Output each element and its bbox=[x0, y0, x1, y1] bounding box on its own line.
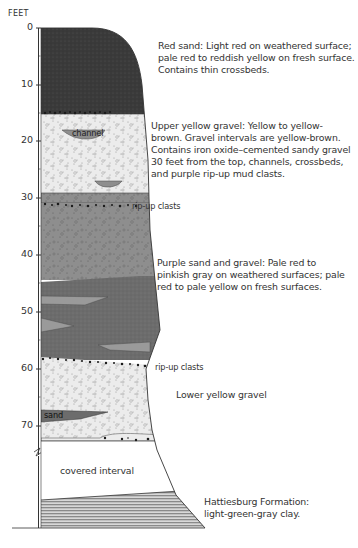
description-line: Hattiesburg Formation: bbox=[204, 496, 309, 508]
description-line: brown. Gravel intervals are yellow-brown… bbox=[151, 132, 341, 144]
covered-interval-label: covered interval bbox=[60, 465, 134, 477]
description-line: Upper yellow gravel: Yellow to yellow- bbox=[151, 120, 323, 132]
stratigraphic-column-figure: FEET 0 10 20 30 40 50 60 70 bbox=[0, 0, 358, 548]
description-line: Lower yellow gravel bbox=[176, 389, 267, 401]
description-line: light-green-gray clay. bbox=[204, 508, 300, 520]
description-line: Contains thin crossbeds. bbox=[158, 64, 269, 76]
description-line: and purple rip-up mud clasts. bbox=[151, 168, 285, 180]
description-line: red to pale yellow on fresh surfaces. bbox=[157, 281, 322, 293]
description-line: 30 feet from the top, channels, crossbed… bbox=[151, 156, 343, 168]
description-line: pale red to reddish yellow on fresh surf… bbox=[158, 52, 355, 64]
rip-up-clasts-label-upper: rip-up clasts bbox=[132, 200, 180, 212]
channel-label: channel bbox=[72, 127, 103, 139]
sand-lens-label: sand bbox=[44, 409, 63, 421]
rip-up-clasts-label-lower: rip-up clasts bbox=[155, 361, 203, 373]
description-line: pinkish gray on weathered surfaces; pale bbox=[157, 269, 345, 281]
description-line: Red sand: Light red on weathered surface… bbox=[158, 40, 351, 52]
description-line: Contains iron oxide–cemented sandy grave… bbox=[151, 144, 350, 156]
description-line: Purple sand and gravel: Pale red to bbox=[157, 257, 316, 269]
